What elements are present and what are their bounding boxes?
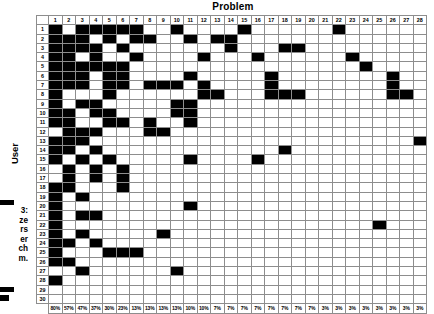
matrix-cell xyxy=(278,25,292,34)
matrix-cell xyxy=(251,127,265,136)
matrix-cell xyxy=(292,108,306,117)
matrix-cell xyxy=(62,183,76,192)
matrix-cell xyxy=(170,285,184,294)
matrix-cell xyxy=(346,53,360,62)
row-header-27: 27 xyxy=(37,267,49,276)
matrix-cell xyxy=(413,34,427,43)
matrix-cell xyxy=(332,285,346,294)
matrix-cell xyxy=(211,136,225,145)
matrix-cell xyxy=(184,174,198,183)
matrix-cell xyxy=(76,43,90,52)
matrix-cell xyxy=(346,267,360,276)
matrix-cell xyxy=(292,62,306,71)
matrix-row: 15 xyxy=(37,155,427,164)
matrix-cell xyxy=(305,53,319,62)
matrix-cell xyxy=(49,127,63,136)
matrix-cell xyxy=(49,164,63,173)
matrix-cell xyxy=(116,220,130,229)
matrix-cell xyxy=(143,71,157,80)
column-header-11: 11 xyxy=(184,16,198,25)
matrix-cell xyxy=(116,62,130,71)
matrix-cell xyxy=(413,220,427,229)
matrix-cell xyxy=(305,294,319,303)
matrix-cell xyxy=(413,248,427,257)
matrix-cell xyxy=(332,136,346,145)
matrix-cell xyxy=(386,71,400,80)
matrix-cell xyxy=(184,164,198,173)
matrix-cell xyxy=(319,192,333,201)
matrix-row: 2 xyxy=(37,34,427,43)
matrix-cell xyxy=(386,53,400,62)
column-percentage: 37% xyxy=(89,304,103,313)
matrix-cell xyxy=(103,136,117,145)
matrix-cell xyxy=(157,155,171,164)
matrix-cell xyxy=(386,229,400,238)
matrix-cell xyxy=(251,34,265,43)
matrix-cell xyxy=(116,146,130,155)
matrix-cell xyxy=(224,71,238,80)
column-percentage: 3% xyxy=(413,304,427,313)
matrix-cell xyxy=(130,211,144,220)
matrix-cell xyxy=(143,118,157,127)
matrix-cell xyxy=(359,211,373,220)
matrix-cell xyxy=(224,136,238,145)
matrix-cell xyxy=(359,248,373,257)
matrix-cell xyxy=(211,257,225,266)
matrix-cell xyxy=(332,71,346,80)
matrix-cell xyxy=(62,294,76,303)
matrix-cell xyxy=(400,211,414,220)
matrix-cell xyxy=(359,201,373,210)
matrix-cell xyxy=(359,108,373,117)
matrix-cell xyxy=(305,257,319,266)
matrix-cell xyxy=(116,192,130,201)
matrix-cell xyxy=(332,192,346,201)
matrix-cell xyxy=(224,146,238,155)
matrix-cell xyxy=(278,146,292,155)
matrix-cell xyxy=(238,211,252,220)
matrix-cell xyxy=(143,90,157,99)
matrix-cell xyxy=(319,71,333,80)
matrix-cell xyxy=(373,90,387,99)
matrix-cell xyxy=(103,174,117,183)
matrix-cell xyxy=(157,164,171,173)
matrix-cell xyxy=(278,192,292,201)
matrix-cell xyxy=(62,90,76,99)
matrix-cell xyxy=(373,267,387,276)
matrix-cell xyxy=(278,229,292,238)
matrix-cell xyxy=(251,53,265,62)
matrix-cell xyxy=(49,155,63,164)
matrix-cell xyxy=(413,267,427,276)
matrix-cell xyxy=(184,285,198,294)
matrix-cell xyxy=(103,192,117,201)
matrix-cell xyxy=(211,81,225,90)
row-header-16: 16 xyxy=(37,164,49,173)
matrix-cell xyxy=(346,43,360,52)
matrix-cell xyxy=(197,276,211,285)
matrix-row: 23 xyxy=(37,229,427,238)
matrix-cell xyxy=(332,276,346,285)
matrix-cell xyxy=(292,211,306,220)
matrix-cell xyxy=(103,257,117,266)
matrix-cell xyxy=(332,164,346,173)
matrix-cell xyxy=(251,174,265,183)
matrix-cell xyxy=(278,34,292,43)
matrix-cell xyxy=(346,99,360,108)
matrix-cell xyxy=(89,81,103,90)
matrix-cell xyxy=(278,174,292,183)
matrix-cell xyxy=(224,108,238,117)
matrix-cell xyxy=(49,34,63,43)
column-percentage: 7% xyxy=(251,304,265,313)
matrix-row: 16 xyxy=(37,164,427,173)
matrix-cell xyxy=(197,99,211,108)
column-header-15: 15 xyxy=(238,16,252,25)
row-header-23: 23 xyxy=(37,229,49,238)
matrix-cell xyxy=(400,81,414,90)
matrix-cell xyxy=(211,99,225,108)
matrix-cell xyxy=(359,136,373,145)
matrix-cell xyxy=(386,220,400,229)
matrix-cell xyxy=(49,192,63,201)
column-percentage: 3% xyxy=(400,304,414,313)
matrix-cell xyxy=(319,211,333,220)
column-header-12: 12 xyxy=(197,16,211,25)
column-header-13: 13 xyxy=(211,16,225,25)
